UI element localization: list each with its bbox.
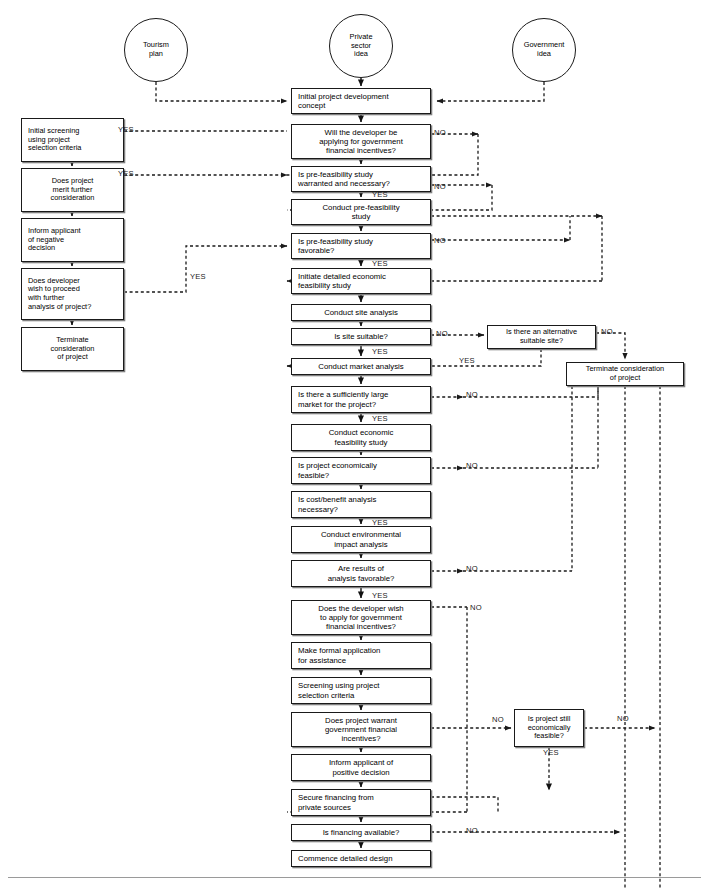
node-label: Is cost/benefit analysisnecessary? [292,495,379,513]
oval-label: Privatesectoridea [349,33,372,60]
node-still-feasible-q: Is project stilleconomicallyfeasible? [514,709,584,747]
node-conduct-env: Conduct environmentalimpact analysis [291,526,431,553]
node-label: Initial project developmentconcept [292,92,392,110]
oval-label: Governmentidea [524,41,565,59]
node-label: Does developerwish to proceedwith furthe… [22,277,94,312]
node-screening-criteria: Screening using projectselection criteri… [291,677,431,704]
edge-label-yes-still-feasible: YES [543,748,559,757]
node-label: Conduct economicfeasibility study [326,428,397,446]
node-financing-available-q: Is financing available? [291,824,431,841]
node-label: Is site suitable? [331,332,391,341]
node-developer-proceed: Does developerwish to proceedwith furthe… [21,268,124,320]
node-label: Commence detailed design [292,854,395,863]
edge-label-yes-prefeas-warranted: YES [372,190,388,199]
node-commence-design: Commence detailed design [291,850,431,867]
node-initiate-economic: Initiate detailed economicfeasibility st… [291,268,431,294]
node-apply-incentives-q: Will the developer beapplying for govern… [291,124,431,159]
edge-label-no-apply-incentives: NO [434,128,446,137]
node-label: Screening using projectselection criteri… [292,681,382,699]
edge-label-no-still-feasible: NO [617,714,629,723]
node-inform-positive: Inform applicant ofpositive decision [291,754,431,781]
node-label: Will the developer beapplying for govern… [316,128,406,156]
node-label: Inform applicant ofpositive decision [326,758,396,776]
node-market-large-q: Is there a sufficiently largemarket for … [291,386,431,413]
node-label: Is there a sufficiently largemarket for … [292,390,391,408]
node-conduct-market: Conduct market analysis [291,358,431,375]
node-merit-consideration: Does projectmerit furtherconsideration [21,168,124,212]
node-label: Conduct site analysis [321,308,401,317]
node-label: Is there an alternativesuitable site? [503,328,580,345]
flowchart-canvas: TourismplanPrivatesectorideaGovernmentid… [0,0,709,889]
edge-label-no-warrant-incentives: NO [492,715,504,724]
node-alternative-site-q: Is there an alternativesuitable site? [487,325,596,349]
node-prefeas-warranted-q: Is pre-feasibility studywarranted and ne… [291,166,431,192]
node-label: Conduct pre-feasibilitystudy [319,203,402,221]
node-site-suitable-q: Is site suitable? [291,328,431,345]
node-label: Is pre-feasibility studywarranted and ne… [292,170,393,188]
node-warrant-incentives-q: Does project warrantgovernment financial… [291,712,431,747]
node-label: Terminate considerationof project [583,365,667,382]
node-label: Is project stilleconomicallyfeasible? [525,715,574,741]
edge-label-yes-developer-proceed: YES [190,272,206,281]
node-label: Is pre-feasibility studyfavorable? [292,237,376,255]
node-conduct-econ-study: Conduct economicfeasibility study [291,424,431,451]
node-terminate-left: Terminateconsiderationof project [21,327,124,371]
edge-label-no-econ-feasible: NO [466,461,478,470]
node-label: Conduct market analysis [315,362,406,371]
node-results-favorable-q: Are results ofanalysis favorable? [291,560,431,587]
edge-label-yes-merit: YES [118,169,134,178]
node-formal-application: Make formal applicationfor assistance [291,642,431,669]
node-label: Make formal applicationfor assistance [292,646,383,664]
node-label: Is project economicallyfeasible? [292,461,380,479]
node-conduct-site: Conduct site analysis [291,304,431,321]
node-terminate-right: Terminate considerationof project [566,362,684,386]
node-label: Secure financing fromprivate sources [292,793,377,811]
node-inform-negative: Inform applicantof negativedecision [21,218,124,262]
node-label: Does project warrantgovernment financial… [322,716,400,744]
node-label: Does the developer wishto apply for gove… [315,604,406,632]
edge-label-yes-results-favorable: YES [372,591,388,600]
node-label: Initiate detailed economicfeasibility st… [292,272,389,290]
node-label: Initial screeningusing projectselection … [22,127,84,153]
node-label: Does projectmerit furtherconsideration [48,177,98,203]
edge-label-no-prefeas-favorable: NO [434,236,446,245]
edge-label-no-alternative-site: NO [601,327,613,336]
edge-label-yes-initial-screening: YES [118,125,134,134]
node-secure-financing: Secure financing fromprivate sources [291,789,431,816]
node-label: Conduct environmentalimpact analysis [318,530,404,548]
node-apply-gov-incentives-q: Does the developer wishto apply for gove… [291,600,431,635]
edge-label-yes-market-large: YES [372,414,388,423]
node-econ-feasible-q: Is project economicallyfeasible? [291,457,431,484]
node-costbenefit-q: Is cost/benefit analysisnecessary? [291,491,431,518]
source-oval-government-idea: Governmentidea [512,18,576,82]
edge-label-no-financing: NO [466,826,478,835]
node-initial-concept: Initial project developmentconcept [291,88,431,114]
footer-rule [8,877,701,878]
node-prefeas-favorable-q: Is pre-feasibility studyfavorable? [291,233,431,259]
source-oval-tourism-plan: Tourismplan [124,18,188,82]
edge-label-yes-prefeas-favorable: YES [372,259,388,268]
node-initial-screening: Initial screeningusing projectselection … [21,118,124,162]
edge-label-no-prefeas-warranted: NO [434,182,446,191]
source-oval-private-idea: Privatesectoridea [329,14,393,78]
edge-label-yes-alternative-site: YES [459,356,475,365]
node-conduct-prefeas: Conduct pre-feasibilitystudy [291,199,431,225]
edge-label-no-market-large: NO [466,390,478,399]
node-label: Are results ofanalysis favorable? [325,564,398,582]
node-label: Inform applicantof negativedecision [22,227,84,253]
edge-label-yes-costbenefit: YES [372,518,388,527]
node-label: Terminateconsiderationof project [48,336,98,362]
edge-label-no-site-suitable: NO [436,329,448,338]
edge-label-yes-site-suitable: YES [372,347,388,356]
oval-label: Tourismplan [143,41,169,59]
node-label: Is financing available? [320,828,403,837]
edge-label-no-results-favorable: NO [466,564,478,573]
edge-label-no-apply-gov: NO [470,603,482,612]
